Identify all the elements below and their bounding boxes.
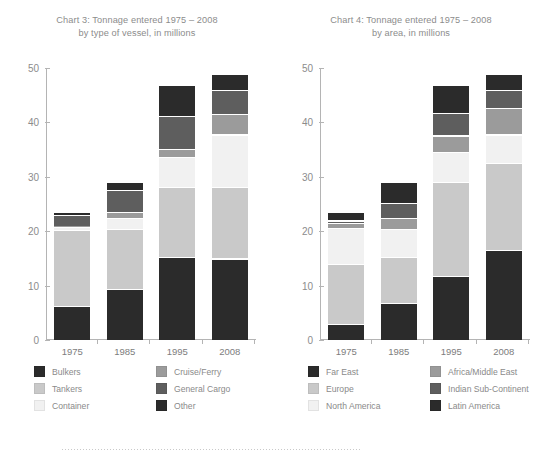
bar-segment	[486, 91, 522, 108]
legend-swatch	[430, 400, 441, 411]
bar-segment	[433, 277, 469, 340]
x-axis-tick	[254, 340, 255, 344]
x-axis-tick	[423, 340, 424, 344]
bar-segment	[54, 226, 90, 227]
chart-3-y-axis	[46, 68, 47, 340]
legend-label: Indian Sub-Continent	[448, 384, 529, 394]
figure-container: Chart 3: Tonnage entered 1975 – 2008 by …	[0, 0, 548, 462]
legend-label: Africa/Middle East	[448, 367, 517, 377]
bar-segment	[107, 230, 143, 289]
y-axis-tick-label: 50	[28, 63, 39, 74]
chart-4-plot-area: 010203040501975198519952008	[320, 68, 530, 340]
y-axis-tick	[45, 231, 50, 232]
y-axis-tick	[45, 68, 50, 69]
bar-segment	[159, 188, 195, 256]
y-axis-tick	[45, 122, 50, 123]
legend-item: General Cargo	[156, 383, 274, 394]
legend-item: Latin America	[430, 400, 548, 411]
x-axis-tick	[476, 340, 477, 344]
x-axis-tick-label: 1995	[167, 346, 188, 357]
footer-divider	[62, 449, 362, 450]
bar-1975	[54, 212, 90, 340]
legend-swatch	[34, 400, 45, 411]
legend-label: Far East	[326, 367, 358, 377]
legend-label: Tankers	[52, 384, 82, 394]
y-axis-tick	[319, 68, 324, 69]
bar-segment	[54, 216, 90, 226]
x-axis-tick	[97, 340, 98, 344]
legend-item: Africa/Middle East	[430, 366, 548, 377]
y-axis-tick-label: 10	[28, 280, 39, 291]
bar-segment	[212, 260, 248, 340]
y-axis-tick-label: 50	[302, 63, 313, 74]
chart-3-panel: Chart 3: Tonnage entered 1975 – 2008 by …	[0, 0, 274, 420]
bar-segment	[54, 231, 90, 306]
x-axis-tick	[202, 340, 203, 344]
legend-swatch	[156, 383, 167, 394]
legend-label: Other	[174, 401, 196, 411]
bar-segment	[433, 86, 469, 113]
legend-label: General Cargo	[174, 384, 230, 394]
bar-segment	[54, 213, 90, 215]
bar-segment	[486, 75, 522, 90]
legend-swatch	[308, 366, 319, 377]
legend-item: Tankers	[34, 383, 152, 394]
bar-segment	[107, 290, 143, 340]
y-axis-tick	[319, 286, 324, 287]
bar-segment	[381, 183, 417, 202]
y-axis-tick	[45, 286, 50, 287]
bar-segment	[159, 158, 195, 187]
bar-segment	[159, 117, 195, 149]
bar-segment	[433, 137, 469, 152]
x-axis-tick-label: 1985	[114, 346, 135, 357]
legend-item: Bulkers	[34, 366, 152, 377]
bar-segment	[107, 183, 143, 189]
bar-segment	[486, 109, 522, 134]
bar-segment	[54, 228, 90, 230]
y-axis-tick	[319, 122, 324, 123]
bar-segment	[212, 136, 248, 187]
bar-1975	[328, 212, 364, 340]
y-axis-tick-label: 10	[302, 280, 313, 291]
legend-swatch	[308, 400, 319, 411]
y-axis-tick-label: 40	[302, 117, 313, 128]
x-axis-tick	[371, 340, 372, 344]
legend-label: Europe	[326, 384, 354, 394]
chart-4-panel: Chart 4: Tonnage entered 1975 – 2008 by …	[274, 0, 548, 420]
legend-label: Latin America	[448, 401, 500, 411]
bar-segment	[159, 150, 195, 156]
bar-segment	[107, 191, 143, 212]
bar-2008	[486, 73, 522, 340]
bar-segment	[381, 204, 417, 217]
bar-segment	[159, 258, 195, 340]
legend-label: Bulkers	[52, 367, 81, 377]
legend-label: Container	[52, 401, 89, 411]
legend-swatch	[430, 383, 441, 394]
x-axis-tick-label: 1975	[336, 346, 357, 357]
bar-segment	[212, 188, 248, 259]
legend-item: Container	[34, 400, 152, 411]
legend-swatch	[156, 366, 167, 377]
chart-4-title: Chart 4: Tonnage entered 1975 – 2008 by …	[274, 14, 548, 40]
legend-label: North America	[326, 401, 380, 411]
y-axis-tick	[45, 177, 50, 178]
bar-segment	[433, 153, 469, 182]
x-axis-tick-label: 1995	[441, 346, 462, 357]
legend-item: Cruise/Ferry	[156, 366, 274, 377]
legend-item: Europe	[308, 383, 426, 394]
legend-item: Other	[156, 400, 274, 411]
y-axis-tick	[45, 340, 50, 341]
bar-segment	[381, 230, 417, 257]
bar-segment	[486, 136, 522, 163]
chart-3-subtitle: by type of vessel, in millions	[0, 27, 274, 40]
y-axis-tick-label: 30	[302, 171, 313, 182]
bar-segment	[381, 304, 417, 340]
y-axis-tick-label: 20	[28, 226, 39, 237]
x-axis-tick-label: 2008	[493, 346, 514, 357]
x-axis-tick-label: 2008	[219, 346, 240, 357]
bar-segment	[328, 224, 364, 228]
bar-segment	[433, 183, 469, 275]
legend-item: North America	[308, 400, 426, 411]
chart-4-subtitle: by area, in millions	[274, 27, 548, 40]
bar-segment	[433, 114, 469, 136]
